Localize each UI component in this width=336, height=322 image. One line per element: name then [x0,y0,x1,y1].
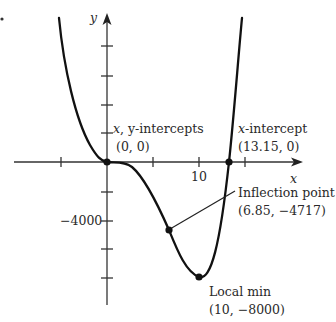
x-axis [14,157,296,167]
x-axis-label: x [290,171,297,186]
inflection-point [165,226,172,233]
origin-label-x: x [113,121,120,136]
origin-label-line2: (0, 0) [116,139,150,154]
origin-label-line1: x, y-intercepts [113,121,204,136]
inflection-leader-line [170,191,235,229]
x-intercept-label-x: x [238,121,245,136]
function-graph: y x 10 −4000 x, y-intercepts (0, 0) x-in… [0,0,336,322]
function-curve [59,18,242,277]
bullet-mark [0,17,3,20]
local-min-label-line2: (10, −8000) [209,302,285,317]
inflection-label-line2: (6.85, −4717) [238,203,326,218]
x-intercept-label-line1: x-intercept [238,121,307,136]
y-axis-label: y [89,10,98,25]
origin-label-rest: , y-intercepts [120,121,204,136]
x-intercept-label-rest: -intercept [245,121,307,136]
x-intercept-label-line2: (13.15, 0) [238,139,299,154]
local-min-point [195,273,202,280]
inflection-label-line1: Inflection point [238,185,335,200]
x-intercept-point [225,158,232,165]
x-tick-label-10: 10 [191,169,207,184]
origin-point [103,158,110,165]
y-tick-label-neg4000: −4000 [60,213,102,228]
local-min-label-line1: Local min [209,284,271,299]
